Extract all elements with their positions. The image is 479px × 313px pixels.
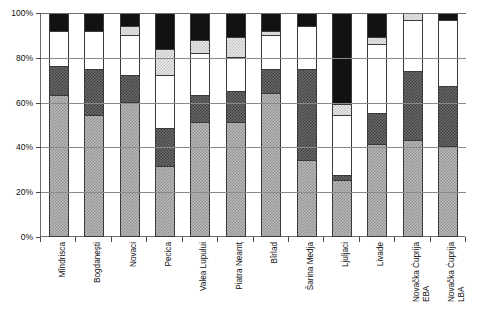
gridline-40 [41, 147, 466, 148]
bar-segment-series-1 [50, 96, 68, 236]
x-axis-labels: MîndriscaBogdaneștiNovaciPecicaValea Lup… [40, 242, 465, 313]
bar-segment-series-4 [404, 14, 422, 21]
bar-segment-series-5 [156, 14, 174, 50]
bar-segment-series-3 [404, 21, 422, 72]
bar-segment-series-5 [227, 14, 245, 38]
bar-segment-series-4 [191, 41, 209, 54]
bar-segment-series-1 [333, 181, 351, 237]
gridline-80 [41, 58, 466, 59]
bar-segment-series-4 [333, 105, 351, 116]
bar-segment-series-5 [333, 14, 351, 105]
bar-segment-series-2 [404, 72, 422, 141]
x-axis-label-text: Novačka ĆuprijaLBA [447, 242, 466, 302]
table-row[interactable] [403, 13, 423, 237]
bar-segment-series-5 [50, 14, 68, 32]
bar-segment-series-5 [262, 14, 280, 32]
table-row[interactable] [190, 13, 210, 237]
table-row[interactable] [226, 13, 246, 237]
bar-segment-series-2 [85, 70, 103, 117]
bar-segment-series-1 [191, 123, 209, 236]
x-axis-label-text: Valea Lupului [199, 242, 209, 291]
bar-segment-series-3 [50, 32, 68, 68]
x-axis-label-text: Šarina Medja [306, 242, 316, 290]
bar-segment-series-5 [368, 14, 386, 38]
table-row[interactable] [120, 13, 140, 237]
bar-segment-series-2 [121, 76, 139, 103]
bar-segment-series-1 [298, 161, 316, 236]
bar-segment-series-3 [227, 58, 245, 91]
bar-segment-series-5 [121, 14, 139, 27]
bar-segment-series-1 [121, 103, 139, 236]
bar-segment-series-1 [227, 123, 245, 236]
y-tick-40 [36, 147, 41, 148]
bar-segment-series-2 [368, 114, 386, 145]
bar-segment-series-1 [404, 141, 422, 236]
bar-segment-series-3 [121, 36, 139, 76]
x-axis-label-text: Novaci [129, 242, 139, 267]
bar-segment-series-3 [298, 27, 316, 69]
x-axis-label-text: Ljuljaci [341, 242, 351, 267]
bar-segment-series-3 [262, 36, 280, 69]
y-tick-label: 100% [11, 8, 33, 18]
bar-segment-series-1 [85, 116, 103, 236]
bar-segment-series-4 [227, 38, 245, 58]
table-row[interactable] [84, 13, 104, 237]
bar-segment-series-3 [333, 116, 351, 176]
gridline-60 [41, 103, 466, 104]
x-axis-label-text: Bogdanești [93, 242, 103, 283]
x-axis-label-text: Mîndrisca [58, 242, 68, 278]
x-axis-label-text: Pecica [164, 242, 174, 267]
bar-segment-series-2 [439, 87, 457, 147]
table-row[interactable] [332, 13, 352, 237]
table-row[interactable] [297, 13, 317, 237]
stacked-bar-chart: 0%20%40%60%80%100% MîndriscaBogdaneștiNo… [0, 0, 479, 313]
y-tick-label: 80% [16, 53, 33, 63]
bar-segment-series-4 [368, 38, 386, 45]
y-tick-20 [36, 192, 41, 193]
bar-segment-series-2 [227, 92, 245, 123]
table-row[interactable] [49, 13, 69, 237]
y-tick-label: 40% [16, 142, 33, 152]
bar-segment-series-5 [191, 14, 209, 41]
gridline-20 [41, 192, 466, 193]
bar-segment-series-5 [439, 14, 457, 21]
bar-segment-series-1 [262, 94, 280, 236]
y-tick-60 [36, 103, 41, 104]
bar-segment-series-5 [85, 14, 103, 32]
x-axis-label-text: Piatra Neamț [235, 242, 245, 290]
bar-segment-series-2 [262, 70, 280, 94]
y-tick-label: 60% [16, 98, 33, 108]
x-axis-label: Novačka ĆuprijaLBA [447, 242, 479, 313]
bar-segment-series-2 [191, 96, 209, 123]
y-tick-label: 0% [21, 232, 33, 242]
y-tick-100 [36, 13, 41, 14]
x-axis-label-text: Novačka ĆuprijaEBA [412, 242, 431, 302]
bar-segment-series-3 [191, 54, 209, 96]
plot-area [40, 13, 465, 237]
bar-segment-series-4 [121, 27, 139, 36]
table-row[interactable] [438, 13, 458, 237]
bar-group [41, 13, 466, 237]
y-tick-label: 20% [16, 187, 33, 197]
bar-segment-series-1 [156, 167, 174, 236]
table-row[interactable] [261, 13, 281, 237]
table-row[interactable] [367, 13, 387, 237]
bar-segment-series-5 [298, 14, 316, 27]
bar-segment-series-1 [368, 145, 386, 236]
x-axis-label-text: Livade [376, 242, 386, 266]
y-tick-80 [36, 58, 41, 59]
bar-segment-series-3 [439, 21, 457, 88]
x-axis-label-text: Bîrlad [270, 242, 280, 263]
bar-segment-series-4 [156, 50, 174, 77]
y-axis-labels: 0%20%40%60%80%100% [0, 13, 40, 237]
gridline-100 [41, 13, 466, 14]
bar-segment-series-3 [85, 32, 103, 70]
bar-segment-series-2 [50, 67, 68, 96]
table-row[interactable] [155, 13, 175, 237]
